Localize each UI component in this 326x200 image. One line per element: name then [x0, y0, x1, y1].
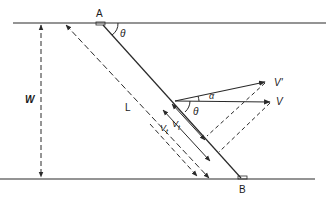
theta-arc-top — [112, 23, 118, 35]
projection-line-v — [219, 103, 270, 152]
vt-inner-label: Vt — [172, 119, 181, 131]
projection-line-v-prime — [207, 83, 265, 136]
alpha-label: α — [209, 91, 215, 101]
v-prime-label: V' — [274, 77, 284, 88]
length-label: L — [125, 102, 131, 113]
vector-v-prime — [175, 82, 265, 101]
vt-dashed-arrow — [150, 124, 197, 176]
theta-arc-vector — [185, 101, 190, 112]
theta-label-vector: θ — [193, 106, 199, 117]
point-b-label: B — [239, 184, 246, 195]
width-label: W — [25, 94, 36, 105]
vector-diagram: W L A B θ V' V α θ Vt Vt — [0, 0, 326, 200]
point-a-label: A — [96, 8, 103, 19]
theta-label-top: θ — [120, 28, 126, 39]
alpha-arc — [198, 96, 199, 101]
vector-v — [175, 101, 270, 102]
v-label: V — [276, 96, 284, 107]
vt-outer-label: Vt — [160, 123, 169, 135]
